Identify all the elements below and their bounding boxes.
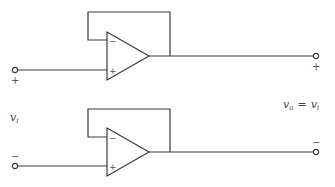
top-input-terminal [12, 67, 17, 72]
voltage-follower-diagram: − + + + − + − − vi vo=vi [0, 0, 335, 187]
equals-sign: = [297, 98, 306, 111]
bottom-inverting-pin-sign: − [109, 133, 117, 143]
bottom-noninverting-pin-sign: + [109, 162, 117, 172]
input-voltage-subscript: i [16, 117, 18, 125]
bottom-output-terminal [313, 149, 318, 154]
bottom-output-terminal-sign: − [312, 137, 320, 148]
bottom-input-terminal-sign: − [11, 151, 19, 162]
output-voltage-subscript: o [289, 104, 293, 112]
bottom-follower-circuit: − + − − [11, 109, 320, 176]
bottom-input-terminal [12, 163, 17, 168]
top-inverting-pin-sign: − [109, 36, 117, 46]
output-voltage-equation: vo=vi [283, 98, 319, 112]
top-output-terminal [313, 53, 318, 58]
top-noninverting-pin-sign: + [109, 66, 117, 76]
top-input-terminal-sign: + [11, 75, 19, 86]
top-output-terminal-sign: + [312, 61, 320, 72]
output-eq-rhs-subscript: i [317, 104, 319, 112]
input-voltage-label: vi [10, 111, 18, 125]
top-follower-circuit: − + + + [11, 12, 320, 86]
